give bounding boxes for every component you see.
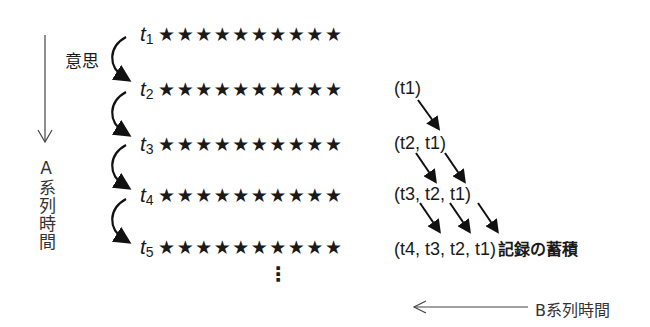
will-curved-arrows	[100, 25, 140, 255]
time-label: t5	[140, 235, 154, 258]
stars: ★★★★★★★★★★	[158, 133, 343, 155]
time-label: t2	[140, 77, 154, 100]
stars: ★★★★★★★★★★	[158, 236, 343, 258]
row-t4: t4 ★★★★★★★★★★	[140, 183, 343, 208]
row-t1: t1 ★★★★★★★★★★	[140, 22, 343, 47]
will-label: 意思	[65, 47, 99, 72]
a-series-label: A系列時間	[34, 158, 59, 251]
row-t5: t5 ★★★★★★★★★★	[140, 235, 343, 260]
record-shift-arrows	[390, 90, 500, 240]
ellipsis: ⋮	[268, 262, 288, 286]
stars: ★★★★★★★★★★	[158, 23, 343, 45]
b-series-arrow	[412, 300, 530, 314]
row-t3: t3 ★★★★★★★★★★	[140, 132, 343, 157]
row-t2: t2 ★★★★★★★★★★	[140, 77, 343, 102]
time-label: t3	[140, 132, 154, 155]
stars: ★★★★★★★★★★	[158, 184, 343, 206]
stars: ★★★★★★★★★★	[158, 78, 343, 100]
time-label: t4	[140, 183, 154, 206]
a-series-arrow	[35, 30, 55, 150]
time-label: t1	[140, 22, 154, 45]
b-series-label: B系列時間	[535, 297, 610, 321]
